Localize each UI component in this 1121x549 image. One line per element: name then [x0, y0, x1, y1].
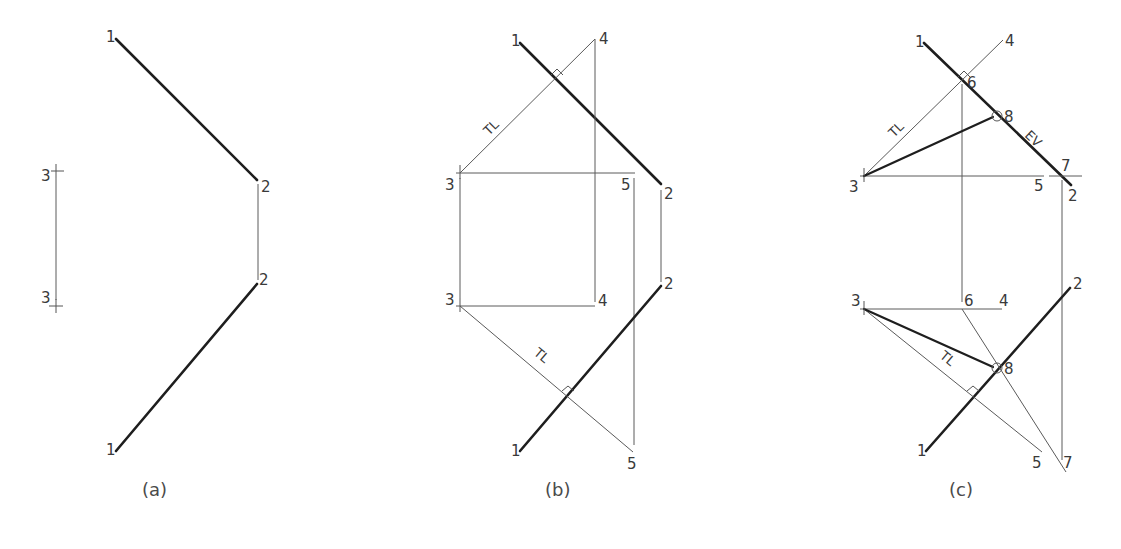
- label-5-bottom: 5: [627, 455, 637, 473]
- label-6-bottom: 6: [964, 292, 974, 310]
- panel-b: 1 4 3 5 2 3 4 2 1 5 TL TL (b): [445, 30, 674, 500]
- caption-c: (c): [949, 479, 973, 500]
- panel-c: 1 4 6 8 EV 7 3 5 2 3 6 4 2 8 1 5 7 TL TL…: [849, 32, 1083, 500]
- label-2-top: 2: [261, 178, 271, 196]
- true-length-3-5-bottom: [460, 306, 633, 452]
- line-1-2-edge-view: [924, 43, 1071, 185]
- line-1-2-top-view: [520, 43, 661, 184]
- point-3-bottom-cross: [49, 299, 63, 313]
- label-5-bottom: 5: [1032, 454, 1042, 472]
- line-1-2-front-view: [116, 284, 257, 451]
- line-1-2-top-view: [116, 39, 257, 180]
- true-length-3-5-bottom: [864, 309, 1042, 452]
- label-1-bottom: 1: [511, 442, 521, 460]
- label-3-top: 3: [849, 178, 859, 196]
- descriptive-geometry-figure: 1 2 2 1 3 3 (a) 1 4 3 5 2 3 4 2 1 5: [0, 0, 1121, 549]
- true-length-3-4-top: [864, 40, 1003, 176]
- label-3-bottom: 3: [445, 291, 455, 309]
- label-2-bottom: 2: [664, 275, 674, 293]
- label-3-top: 3: [445, 176, 455, 194]
- label-true-length-top: TL: [480, 116, 503, 139]
- label-4-top: 4: [599, 30, 609, 48]
- label-1-top: 1: [106, 28, 116, 46]
- label-3-bottom: 3: [41, 289, 51, 307]
- label-edge-view: EV: [1022, 127, 1045, 150]
- label-1-top: 1: [511, 32, 521, 50]
- line-1-2-front-view: [520, 286, 661, 451]
- label-7-bottom: 7: [1063, 454, 1073, 472]
- caption-b: (b): [545, 479, 570, 500]
- caption-a: (a): [142, 479, 167, 500]
- label-true-length-bottom: TL: [530, 344, 553, 366]
- shortest-line-3-8-top: [864, 117, 993, 176]
- true-length-3-4-top: [460, 39, 595, 173]
- label-1-top: 1: [915, 33, 925, 51]
- label-8-bottom: 8: [1004, 360, 1014, 378]
- label-3-bottom: 3: [851, 292, 861, 310]
- label-3-top: 3: [41, 167, 51, 185]
- label-2-bottom: 2: [1073, 275, 1083, 293]
- label-7-top: 7: [1061, 157, 1071, 175]
- label-5-top: 5: [621, 176, 631, 194]
- label-4-top: 4: [1005, 32, 1015, 50]
- label-5-top: 5: [1034, 177, 1044, 195]
- label-2-top: 2: [664, 185, 674, 203]
- label-8-top: 8: [1004, 108, 1014, 126]
- label-2-bottom: 2: [259, 271, 269, 289]
- label-4-bottom: 4: [999, 292, 1009, 310]
- panel-a: 1 2 2 1 3 3 (a): [41, 28, 271, 500]
- point-3-top-cross: [51, 164, 64, 178]
- label-6-top: 6: [967, 74, 977, 92]
- line-6-7-bottom: [962, 309, 1066, 472]
- label-2-top: 2: [1068, 187, 1078, 205]
- shortest-line-3-8-bottom: [864, 309, 993, 367]
- label-1-bottom: 1: [917, 442, 927, 460]
- line-1-2-front-view: [926, 288, 1070, 451]
- right-angle-mark-bottom: [967, 386, 979, 391]
- label-4-bottom: 4: [598, 292, 608, 310]
- label-1-bottom: 1: [106, 441, 116, 459]
